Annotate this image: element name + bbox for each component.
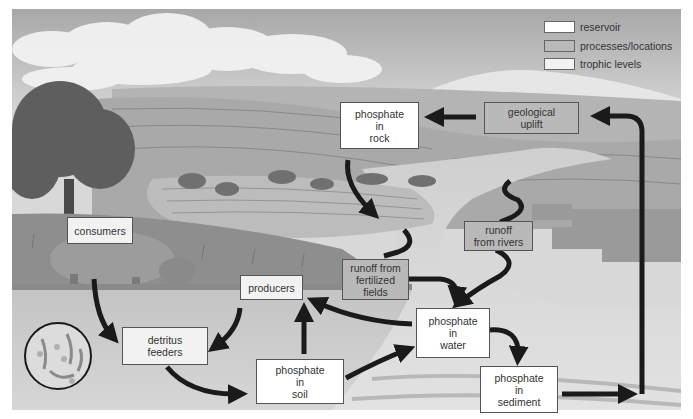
node-runoff-from-fertilized-fields: runoff from fertilized fields: [342, 259, 409, 300]
legend-label: reservoir: [580, 21, 621, 33]
legend-item-reservoir: reservoir: [544, 18, 672, 37]
legend-item-processes: processes/locations: [544, 37, 672, 56]
reeds: [532, 204, 681, 262]
node-geological-uplift: geological uplift: [484, 102, 579, 134]
legend-label: trophic levels: [580, 58, 641, 70]
node-producers: producers: [240, 275, 303, 300]
node-detritus-feeders: detritus feeders: [122, 327, 208, 365]
microbes-magnified-circle: [25, 323, 91, 389]
node-phosphate-in-water: phosphate in water: [416, 308, 490, 358]
legend-swatch-trophic: [544, 58, 575, 70]
node-phosphate-in-sediment: phosphate in sediment: [480, 366, 558, 413]
legend: reservoir processes/locations trophic le…: [544, 18, 672, 74]
legend-label: processes/locations: [580, 40, 672, 52]
node-consumers: consumers: [67, 217, 133, 244]
legend-swatch-reservoir: [544, 21, 575, 33]
legend-item-trophic: trophic levels: [544, 55, 672, 74]
node-runoff-from-rivers: runoff from rivers: [464, 221, 533, 251]
node-phosphate-in-rock: phosphate in rock: [340, 102, 419, 149]
node-phosphate-in-soil: phosphate in soil: [256, 359, 344, 404]
legend-swatch-processes: [544, 40, 575, 52]
